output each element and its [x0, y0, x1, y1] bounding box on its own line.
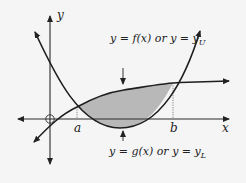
lower-curve-label-sub: L	[200, 151, 206, 160]
lower-curve-label: y = g(x) or y = yL	[108, 145, 206, 160]
x-axis-label: x	[222, 121, 229, 135]
lower-curve-label-main: y = g(x) or y = y	[108, 145, 202, 158]
point-b-label: b	[170, 121, 178, 135]
upper-curve-label: y = f(x) or y = yU	[109, 32, 206, 47]
upper-curve-label-main: y = f(x) or y = y	[109, 32, 200, 45]
area-between-curves-diagram: y x a b y = f(x) or y = yU y = g(x) or y…	[0, 0, 246, 183]
upper-curve-label-sub: U	[199, 38, 206, 47]
y-axis-label: y	[56, 8, 64, 22]
point-a-label: a	[74, 121, 81, 135]
